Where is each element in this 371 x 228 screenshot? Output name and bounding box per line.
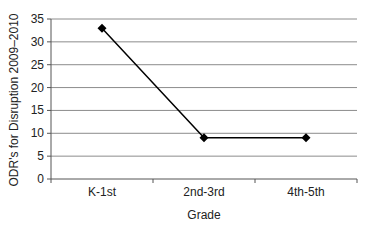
- y-tick-label: 25: [31, 58, 45, 72]
- y-axis-ticks: 05101520253035: [31, 12, 51, 186]
- x-tick-label: 4th-5th: [287, 185, 324, 199]
- y-tick-label: 30: [31, 35, 45, 49]
- line-chart: 05101520253035 K-1st2nd-3rd4th-5th Grade…: [0, 0, 371, 228]
- y-tick-label: 15: [31, 103, 45, 117]
- axes: [51, 19, 357, 179]
- x-tick-label: K-1st: [88, 185, 117, 199]
- y-tick-label: 20: [31, 81, 45, 95]
- x-axis-title: Grade: [187, 208, 221, 222]
- y-tick-label: 0: [37, 172, 44, 186]
- x-axis-ticks: K-1st2nd-3rd4th-5th: [51, 179, 357, 199]
- y-tick-label: 35: [31, 12, 45, 26]
- series-line: [102, 28, 306, 138]
- diamond-marker: [302, 133, 311, 142]
- y-tick-label: 10: [31, 126, 45, 140]
- y-tick-label: 5: [37, 149, 44, 163]
- y-axis-title: ODR's for Disruption 2009–2010: [7, 13, 21, 186]
- x-tick-label: 2nd-3rd: [183, 185, 224, 199]
